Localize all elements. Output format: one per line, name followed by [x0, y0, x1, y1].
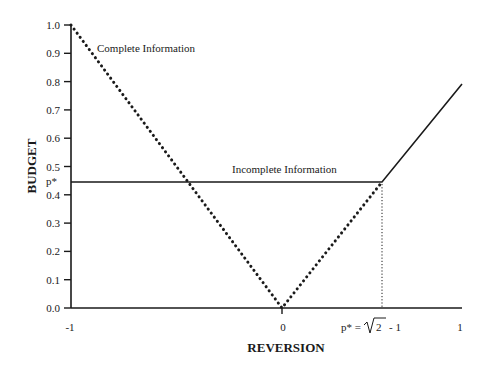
y-tick-label: 0.3 — [46, 217, 60, 229]
y-tick-labels: 0.0 0.1 0.2 0.3 0.4 0.5 0.6 0.7 0.8 0.9 … — [46, 19, 61, 314]
pstar-y-label: p* — [46, 175, 57, 187]
y-tick-label: 0.6 — [46, 132, 60, 144]
svg-text:p* =: p* = — [341, 321, 361, 333]
y-tick-label: 1.0 — [46, 19, 60, 31]
y-axis-title: BUDGET — [24, 138, 39, 193]
x-tick-label: -1 — [65, 321, 74, 333]
x-tick-labels: -1 0 p* = 2 - 1 1 — [65, 318, 462, 333]
svg-text:- 1: - 1 — [389, 321, 401, 333]
y-tick-label: 0.8 — [46, 76, 60, 88]
y-tick-label: 0.2 — [46, 245, 60, 257]
budget-reversion-chart: 0.0 0.1 0.2 0.3 0.4 0.5 0.6 0.7 0.8 0.9 … — [0, 0, 486, 369]
y-tick-label: 0.4 — [46, 189, 60, 201]
x-tick-label: 0 — [280, 321, 286, 333]
y-tick-label: 0.9 — [46, 47, 60, 59]
x-axis-title: REVERSION — [247, 340, 325, 355]
y-tick-label: 0.0 — [46, 302, 60, 314]
y-ticks — [64, 25, 71, 308]
y-tick-label: 0.7 — [46, 104, 60, 116]
x-tick-label: 1 — [457, 321, 463, 333]
label-incomplete-information: Incomplete Information — [232, 163, 337, 175]
label-complete-information: Complete Information — [97, 42, 196, 54]
svg-text:2: 2 — [376, 321, 382, 333]
pstar-x-label: p* = 2 - 1 — [341, 318, 401, 333]
y-tick-label: 0.5 — [46, 161, 60, 173]
y-tick-label: 0.1 — [46, 274, 60, 286]
